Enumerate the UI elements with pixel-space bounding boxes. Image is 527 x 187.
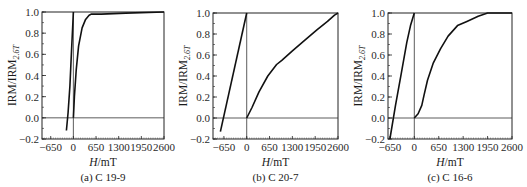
x-tick-label: 650 (88, 141, 105, 153)
chart-c: −0.20.00.20.40.60.81.0−65006501300195026… (352, 0, 527, 187)
panel-caption: (b) C 20-7 (253, 171, 299, 184)
x-tick-label: 0 (71, 141, 77, 153)
panel-caption: (c) C 16-6 (427, 171, 473, 184)
y-tick-label: 0.2 (25, 91, 39, 103)
series-acquisition (73, 12, 164, 118)
y-tick-label: 0.6 (196, 49, 210, 61)
x-tick-label: −650 (39, 141, 62, 153)
y-tick-label: −0.2 (190, 133, 210, 145)
y-tick-label: 0.0 (196, 112, 210, 124)
x-tick-label: 650 (430, 141, 447, 153)
plot-frame (42, 12, 164, 139)
x-tick-label: 0 (412, 141, 418, 153)
y-tick-label: 1.0 (371, 7, 385, 19)
x-tick-label: −650 (213, 141, 236, 153)
y-tick-label: 1.0 (25, 6, 39, 18)
x-tick-label: 1300 (452, 141, 475, 153)
x-tick-label: 2600 (501, 141, 524, 153)
x-tick-label: 0 (244, 141, 250, 153)
series-acquisition (414, 13, 512, 118)
x-axis-label: H/mT (261, 156, 289, 168)
chart-a: −0.20.00.20.40.60.81.0−65006501300195026… (0, 0, 176, 187)
panel-caption: (a) C 19-9 (80, 171, 126, 184)
y-tick-label: 0.6 (371, 49, 385, 61)
x-tick-label: 1300 (281, 141, 304, 153)
y-tick-label: 0.8 (25, 27, 39, 39)
chart-b: −0.20.00.20.40.60.81.0−65006501300195026… (176, 0, 352, 187)
y-tick-label: 0.2 (371, 91, 385, 103)
y-tick-label: 1.0 (196, 7, 210, 19)
y-axis-label: IRM/IRM2.6T (352, 45, 367, 107)
x-axis-label: H/mT (435, 156, 463, 168)
y-axis-label: IRM/IRM2.6T (6, 44, 21, 106)
x-tick-label: 1300 (108, 141, 131, 153)
y-tick-label: 0.4 (196, 70, 210, 82)
x-tick-label: 2600 (327, 141, 350, 153)
x-tick-label: 1950 (304, 141, 327, 153)
plot-frame (213, 13, 338, 139)
y-tick-label: 0.0 (371, 112, 385, 124)
chart-panel-c: −0.20.00.20.40.60.81.0−65006501300195026… (352, 0, 527, 187)
y-tick-label: 0.2 (196, 91, 210, 103)
x-tick-label: −650 (379, 141, 402, 153)
y-tick-label: 0.8 (371, 28, 385, 40)
y-tick-label: 0.4 (371, 70, 385, 82)
y-tick-label: 0.8 (196, 28, 210, 40)
x-tick-label: 1950 (130, 141, 153, 153)
y-tick-label: 0.0 (25, 112, 39, 124)
plot-frame (388, 13, 512, 139)
series-backfield (66, 12, 73, 131)
x-tick-label: 650 (261, 141, 278, 153)
chart-panel-b: −0.20.00.20.40.60.81.0−65006501300195026… (176, 0, 352, 187)
x-tick-label: 2600 (153, 141, 176, 153)
series-acquisition (247, 13, 338, 118)
y-tick-label: 0.4 (25, 70, 39, 82)
y-tick-label: 0.6 (25, 48, 39, 60)
series-backfield (220, 13, 246, 132)
y-axis-label: IRM/IRM2.6T (177, 45, 192, 107)
chart-panel-a: −0.20.00.20.40.60.81.0−65006501300195026… (0, 0, 176, 187)
series-backfield (390, 13, 414, 139)
y-tick-label: −0.2 (19, 133, 39, 145)
x-axis-label: H/mT (88, 156, 116, 168)
x-tick-label: 1950 (477, 141, 500, 153)
